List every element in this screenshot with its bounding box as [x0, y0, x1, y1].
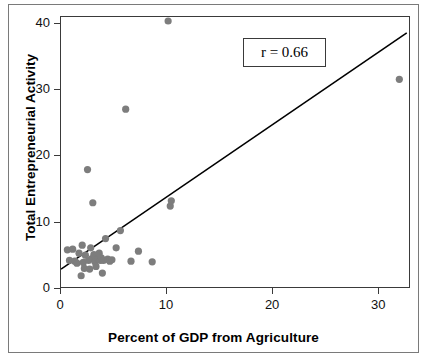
scatter-plot-figure: Total Entrepreneurial Activity 010203040…: [0, 0, 427, 358]
x-tick-label: 0: [40, 297, 80, 312]
data-point: [92, 263, 99, 270]
data-point: [113, 244, 120, 251]
data-point: [396, 76, 403, 83]
x-tick-label: 30: [358, 297, 398, 312]
y-tick-label: 10: [16, 214, 50, 229]
data-point: [87, 244, 94, 251]
regression-line-group: [61, 33, 407, 269]
data-point: [84, 166, 91, 173]
data-point: [122, 106, 129, 113]
y-tick-label: 30: [16, 81, 50, 96]
x-tick-label: 20: [252, 297, 292, 312]
data-point: [127, 258, 134, 265]
y-tick-label: 40: [16, 15, 50, 30]
data-point: [89, 199, 96, 206]
y-tick-label: 20: [16, 147, 50, 162]
plot-canvas: [61, 17, 411, 289]
data-point: [108, 256, 115, 263]
data-point: [135, 248, 142, 255]
data-point: [73, 260, 80, 267]
data-points-group: [64, 17, 403, 279]
x-axis-title: Percent of GDP from Agriculture: [0, 330, 427, 345]
data-point: [75, 250, 82, 257]
data-point: [102, 235, 109, 242]
data-point: [117, 227, 124, 234]
y-tick-label: 0: [16, 280, 50, 295]
data-point: [69, 246, 76, 253]
data-point: [86, 265, 93, 272]
data-point: [149, 258, 156, 265]
data-point: [168, 197, 175, 204]
x-tick-label: 10: [146, 297, 186, 312]
data-point: [99, 269, 106, 276]
regression-line: [61, 33, 407, 269]
plot-area: [60, 16, 410, 288]
correlation-annotation-box: r = 0.66: [243, 38, 326, 67]
data-point: [79, 242, 86, 249]
data-point: [78, 272, 85, 279]
correlation-annotation-label: r = 0.66: [261, 44, 308, 61]
data-point: [165, 17, 172, 24]
